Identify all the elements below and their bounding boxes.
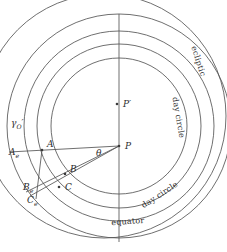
- point-label-P': P′: [122, 99, 131, 109]
- point-C: [58, 186, 61, 189]
- point-A: [41, 149, 44, 152]
- point-P: [118, 145, 121, 148]
- ecliptic-label: ecliptic: [189, 45, 207, 78]
- point-label-A: A: [46, 139, 54, 149]
- day-circle-label-2: day circle: [140, 180, 180, 210]
- point-label-P: P: [124, 141, 132, 151]
- point-P': [116, 103, 119, 106]
- astronomy-figure: PP′ABCAeBeCeγO′θeclipticday circleday ci…: [0, 0, 227, 252]
- point-label-B: B: [69, 164, 77, 174]
- point-label-B_e: Be: [22, 182, 34, 194]
- point-label-C: C: [65, 182, 72, 192]
- angle-label-theta: θ: [96, 148, 102, 158]
- day-circle-label-1: day circle: [170, 96, 186, 139]
- equator-label: equator: [111, 216, 145, 227]
- point-B: [64, 173, 67, 176]
- line-ray-P-to-A: [9, 146, 119, 152]
- label-gamma-O: γO′: [11, 118, 24, 130]
- point-label-A_e: Ae: [8, 147, 20, 159]
- diagram-canvas: PP′ABCAeBeCeγO′θeclipticday circleday ci…: [0, 0, 227, 252]
